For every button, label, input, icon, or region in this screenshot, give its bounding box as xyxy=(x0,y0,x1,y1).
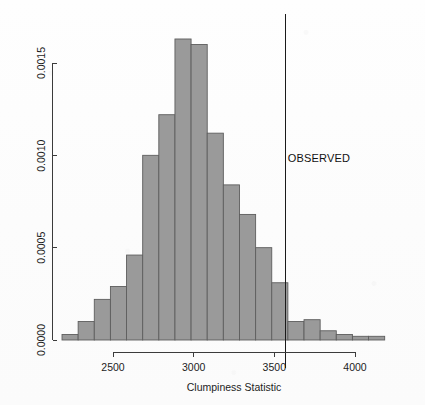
histogram-bar xyxy=(175,39,191,340)
y-tick-label: 0.0000 xyxy=(35,324,47,356)
y-axis xyxy=(53,63,57,340)
x-tick-label: 4000 xyxy=(343,361,367,373)
histogram-bar xyxy=(320,331,336,340)
histogram-bar xyxy=(78,322,94,340)
histogram-bar xyxy=(256,248,272,340)
histogram-bar xyxy=(110,286,126,340)
histogram-bar xyxy=(304,320,320,340)
y-tick-labels: 0.0000 0.0005 0.0010 0.0015 xyxy=(35,47,47,356)
histogram-figure: 0.0000 0.0005 0.0010 0.0015 2500 3000 35… xyxy=(0,0,425,405)
histogram-bar xyxy=(239,214,255,340)
histogram-bar xyxy=(223,185,239,340)
x-tick-labels: 2500 3000 3500 4000 xyxy=(101,361,367,373)
y-tick-label: 0.0015 xyxy=(35,47,47,79)
histogram-bar xyxy=(288,322,304,340)
histogram-bar xyxy=(159,115,175,340)
x-tick-label: 3500 xyxy=(263,361,287,373)
histogram-bar xyxy=(127,255,143,340)
histogram-bar xyxy=(62,334,78,340)
x-axis-title: Clumpiness Statistic xyxy=(187,381,282,393)
y-tick-label: 0.0005 xyxy=(35,232,47,264)
x-tick-label: 2500 xyxy=(101,361,125,373)
x-axis xyxy=(113,353,355,357)
histogram-bar xyxy=(94,299,110,340)
clumpiness-histogram-plot: 0.0000 0.0005 0.0010 0.0015 2500 3000 35… xyxy=(0,0,425,405)
y-tick-label: 0.0010 xyxy=(35,139,47,171)
histogram-bar xyxy=(143,155,159,340)
x-tick-label: 3000 xyxy=(182,361,206,373)
observed-label: OBSERVED xyxy=(288,152,351,164)
histogram-bar xyxy=(352,336,368,340)
histogram-bars xyxy=(62,39,385,340)
histogram-bar xyxy=(369,336,385,340)
histogram-bar xyxy=(191,45,207,340)
histogram-bar xyxy=(336,334,352,340)
histogram-bar xyxy=(207,133,223,340)
